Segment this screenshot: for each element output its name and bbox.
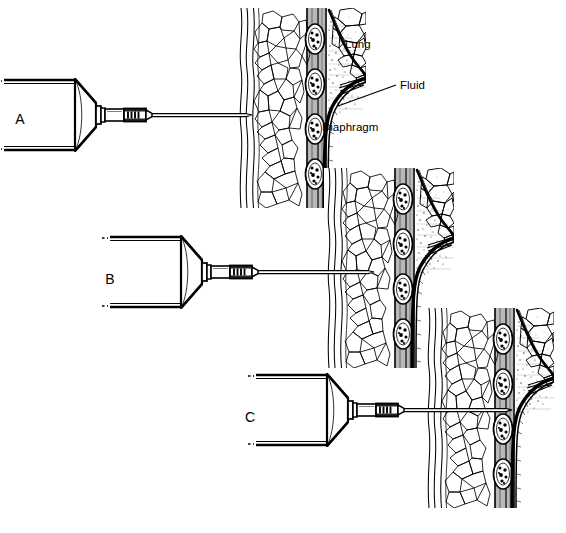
annotation-lung-label: Lung bbox=[345, 38, 371, 50]
annotation-diaphragm-label: Diaphragm bbox=[322, 121, 378, 133]
panel-c-letter: C bbox=[245, 409, 255, 425]
annotation-fluid-label: Fluid bbox=[400, 79, 425, 91]
figure-canvas: A B C Lung Fluid Diaphragm bbox=[0, 0, 566, 533]
panel-b-letter: B bbox=[105, 271, 114, 287]
panel-a-letter: A bbox=[15, 111, 25, 127]
thoracentesis-figure: A B C Lung Fluid Diaphragm bbox=[0, 0, 566, 533]
